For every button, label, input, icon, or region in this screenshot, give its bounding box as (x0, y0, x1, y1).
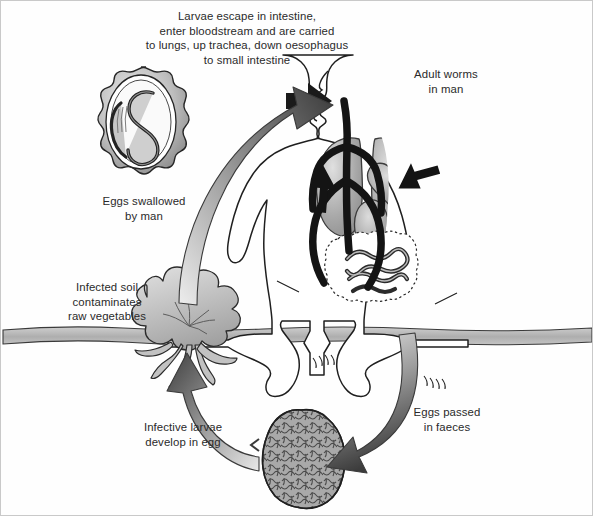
soil-line (3, 327, 592, 345)
intestines (325, 231, 418, 302)
egg-with-larva-icon (98, 67, 189, 174)
label-infected-soil: Infected soil contaminates raw vegetable… (53, 280, 161, 324)
label-adult-worms: Adult worms in man (391, 67, 501, 96)
infective-larvae-arrow (167, 353, 259, 471)
faeces-mass (263, 410, 346, 509)
diagram-page: Larvae escape in intestine, enter bloods… (0, 0, 593, 516)
label-eggs-swallowed: Eggs swallowed by man (89, 194, 199, 223)
label-eggs-passed: Eggs passed in faeces (397, 405, 497, 434)
label-infective-larvae: Infective larvae develop in egg (123, 420, 243, 449)
label-larvae-migration: Larvae escape in intestine, enter bloods… (119, 9, 375, 67)
faeces-pointer-icon (251, 439, 259, 451)
life-cycle-diagram (1, 1, 593, 516)
